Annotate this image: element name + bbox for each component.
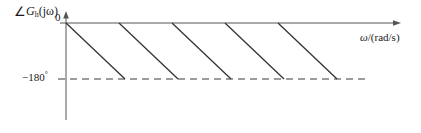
x-axis-label: ω/(rad/s) — [360, 32, 400, 43]
y-axis-arrow-icon — [63, 11, 69, 19]
y-tick-label-0: 0 — [55, 12, 61, 23]
x-axis-label-units: /(rad/s) — [368, 31, 400, 43]
phase-plot-figure: ∠Gh(jω) ω/(rad/s) 0 −180° — [0, 0, 421, 133]
phase-ramp-4 — [225, 23, 284, 79]
degree-symbol-icon: ° — [45, 70, 48, 79]
y-tick-label-minus180: −180° — [22, 71, 48, 83]
phase-ramp-3 — [172, 23, 231, 79]
x-axis-label-omega: ω — [360, 31, 368, 43]
y-axis-label: ∠Gh(jω) — [14, 4, 58, 19]
phase-ramp-1 — [66, 23, 125, 79]
phase-ramp-2 — [119, 23, 178, 79]
phase-ramp-5 — [278, 23, 337, 79]
phase-ramp-group — [66, 23, 337, 79]
y-axis-label-g: G — [26, 4, 35, 18]
x-axis-arrow-icon — [393, 20, 401, 26]
angle-symbol-icon: ∠ — [14, 5, 26, 18]
plot-canvas — [0, 0, 421, 133]
y-tick-minus180-value: −180 — [22, 71, 45, 83]
